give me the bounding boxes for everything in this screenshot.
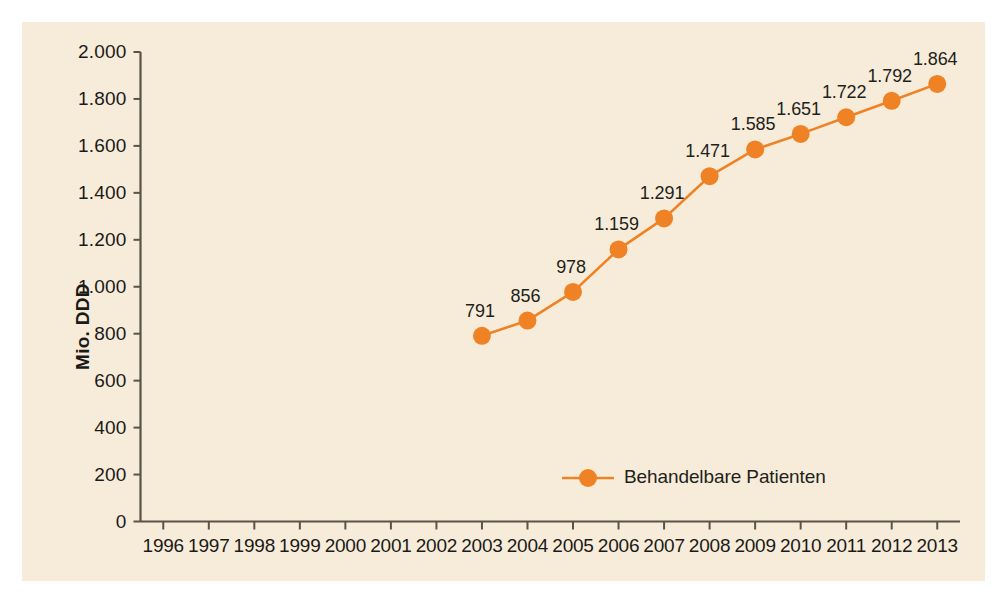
y-axis-tick-label: 2.000 (78, 41, 127, 63)
x-axis-tick-label: 1997 (188, 535, 229, 557)
data-point-label: 1.159 (594, 214, 639, 235)
series-line (482, 84, 937, 336)
x-axis-tick-label: 2001 (370, 535, 411, 557)
y-axis-tick-label: 1.400 (78, 182, 127, 204)
data-point-label: 1.722 (822, 82, 867, 103)
x-axis-tick-label: 2003 (461, 535, 502, 557)
x-axis-tick-label: 2009 (734, 535, 775, 557)
chart-axes (141, 52, 961, 522)
data-point-label: 1.864 (913, 49, 958, 70)
x-axis-tick-label: 1999 (279, 535, 320, 557)
legend-entry-label: Behandelbare Patienten (624, 466, 826, 488)
data-point-label: 978 (556, 257, 586, 278)
legend-marker-icon (562, 469, 614, 487)
y-axis-tick-label: 400 (94, 417, 126, 439)
x-axis-tick-label: 2006 (598, 535, 639, 557)
data-point-label: 1.471 (685, 141, 730, 162)
series-data-point (883, 92, 901, 110)
y-axis-tick-label: 1.200 (78, 229, 127, 251)
series-data-point (473, 327, 491, 345)
series-data-point (928, 75, 946, 93)
chart-figure: 02004006008001.0001.2001.4001.6001.8002.… (0, 0, 1005, 604)
series-data-point (837, 108, 855, 126)
data-point-label: 1.651 (776, 99, 821, 120)
x-axis-tick-label: 1998 (234, 535, 275, 557)
x-axis-tick-label: 2004 (507, 535, 548, 557)
series-data-point (518, 312, 536, 330)
y-axis-title: Mio. DDD (72, 283, 94, 370)
x-axis-tick-label: 2000 (325, 535, 366, 557)
x-axis-tick-label: 2010 (780, 535, 821, 557)
series-data-point (564, 283, 582, 301)
series-data-point (701, 167, 719, 185)
x-axis-tick-label: 2008 (689, 535, 730, 557)
data-point-label: 1.291 (640, 183, 685, 204)
x-axis-tick-label: 2005 (552, 535, 593, 557)
data-point-label: 1.585 (731, 114, 776, 135)
x-axis-tick-label: 2012 (871, 535, 912, 557)
data-point-label: 1.792 (867, 66, 912, 87)
y-axis-tick-label: 200 (94, 464, 126, 486)
series-data-point (610, 240, 628, 258)
series-layer (473, 75, 946, 345)
legend-dot-icon (579, 469, 597, 487)
x-axis-tick-label: 2013 (917, 535, 958, 557)
series-data-point (792, 125, 810, 143)
y-axis-tick-label: 1.800 (78, 88, 127, 110)
data-point-label: 791 (465, 301, 495, 322)
y-axis-tick-label: 1.600 (78, 135, 127, 157)
x-axis-tick-label: 1996 (143, 535, 184, 557)
series-data-point (746, 140, 764, 158)
x-axis-ticks (163, 522, 937, 530)
x-axis-tick-label: 2002 (416, 535, 457, 557)
data-point-label: 856 (511, 286, 541, 307)
y-axis-tick-label: 800 (94, 323, 126, 345)
y-axis-tick-label: 600 (94, 370, 126, 392)
x-axis-tick-label: 2007 (643, 535, 684, 557)
x-axis-tick-label: 2011 (826, 535, 866, 557)
series-data-point (655, 209, 673, 227)
y-axis-tick-label: 0 (116, 511, 127, 533)
